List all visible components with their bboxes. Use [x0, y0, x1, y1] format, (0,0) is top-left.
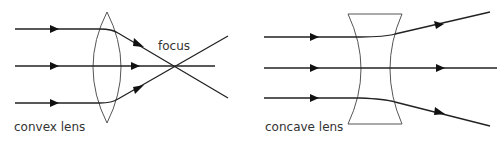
- convex-lens-panel: focus convex lens: [14, 12, 228, 134]
- arrow-icon: [50, 25, 59, 33]
- concave-lens-panel: concave lens: [264, 12, 497, 134]
- arrow-icon: [133, 85, 144, 94]
- arrow-icon: [310, 64, 319, 72]
- focus-label: focus: [158, 39, 190, 53]
- arrow-icon: [310, 94, 319, 102]
- concave-ray-top: [264, 12, 490, 37]
- lens-ray-diagram: focus convex lens concave lens: [0, 0, 501, 146]
- arrow-icon: [133, 38, 144, 47]
- arrow-icon: [131, 62, 140, 70]
- arrow-icon: [434, 107, 445, 115]
- arrow-icon: [50, 62, 59, 70]
- arrow-icon: [50, 99, 59, 107]
- convex-ray-top: [15, 29, 228, 98]
- arrow-icon: [310, 33, 319, 41]
- concave-lens-label: concave lens: [265, 120, 343, 134]
- convex-lens-label: convex lens: [14, 120, 85, 134]
- arrow-icon: [434, 21, 444, 29]
- arrow-icon: [436, 64, 445, 72]
- concave-lens-shape: [348, 14, 402, 124]
- convex-ray-bottom: [15, 36, 228, 103]
